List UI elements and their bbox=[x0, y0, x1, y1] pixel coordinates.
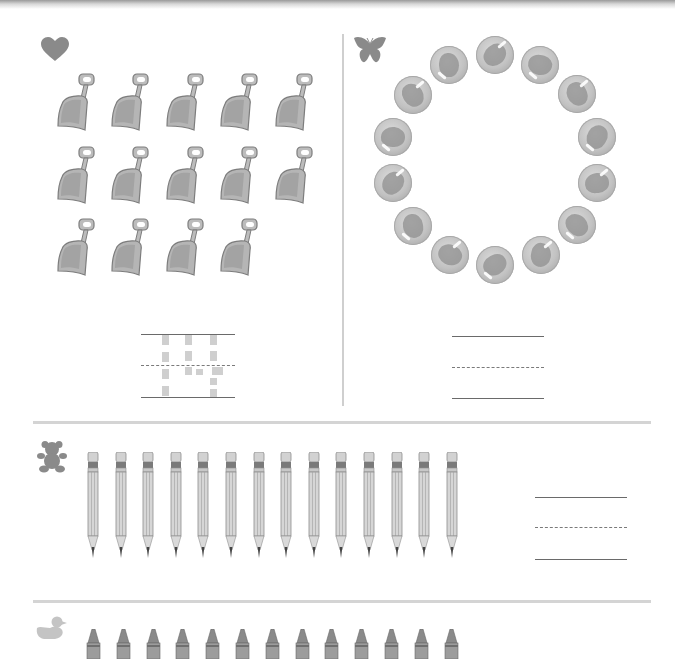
shovel-item bbox=[219, 72, 261, 132]
shovel-item bbox=[165, 217, 207, 277]
scan-top-edge bbox=[0, 0, 675, 9]
crayon-item bbox=[295, 629, 310, 659]
marble-item bbox=[374, 118, 412, 156]
crayon-item bbox=[205, 629, 220, 659]
marble-item bbox=[430, 46, 468, 84]
pencil-item bbox=[363, 452, 375, 560]
pencil-item bbox=[391, 452, 403, 560]
crayon-item bbox=[175, 629, 190, 659]
duck-icon bbox=[36, 616, 68, 640]
crayon-item bbox=[265, 629, 280, 659]
shovel-item bbox=[165, 145, 207, 205]
vertical-divider bbox=[342, 34, 344, 406]
marble-item bbox=[578, 118, 616, 156]
marble-item bbox=[431, 236, 469, 274]
shovel-item bbox=[274, 145, 316, 205]
crayon-item bbox=[444, 629, 459, 659]
horizontal-divider-2 bbox=[33, 600, 651, 603]
pencil-item bbox=[280, 452, 292, 560]
pencil-item bbox=[225, 452, 237, 560]
shovel-item bbox=[110, 217, 152, 277]
pencil-item bbox=[418, 452, 430, 560]
pencil-item bbox=[253, 452, 265, 560]
teddy-bear-icon bbox=[37, 441, 67, 473]
marble-item bbox=[394, 76, 432, 114]
shovel-item bbox=[56, 72, 98, 132]
marble-item bbox=[558, 206, 596, 244]
pencil-item bbox=[308, 452, 320, 560]
marble-item bbox=[558, 75, 596, 113]
marble-item bbox=[521, 46, 559, 84]
shovel-item bbox=[219, 217, 261, 277]
crayon-item bbox=[414, 629, 429, 659]
pencil-item bbox=[335, 452, 347, 560]
heart-icon bbox=[40, 37, 70, 62]
marble-item bbox=[476, 246, 514, 284]
shovel-item bbox=[56, 217, 98, 277]
shovel-item bbox=[165, 72, 207, 132]
shovel-item bbox=[219, 145, 261, 205]
crayon-item bbox=[86, 629, 101, 659]
butterfly-icon bbox=[353, 36, 387, 64]
shovel-item bbox=[110, 145, 152, 205]
pencil-item bbox=[170, 452, 182, 560]
crayon-item bbox=[324, 629, 339, 659]
pencil-item bbox=[142, 452, 154, 560]
crayon-item bbox=[354, 629, 369, 659]
horizontal-divider-1 bbox=[33, 421, 651, 424]
shovel-item bbox=[274, 72, 316, 132]
marble-item bbox=[476, 36, 514, 74]
marble-item bbox=[374, 164, 412, 202]
crayon-item bbox=[146, 629, 161, 659]
pencil-item bbox=[446, 452, 458, 560]
marble-item bbox=[522, 236, 560, 274]
crayon-item bbox=[384, 629, 399, 659]
marble-item bbox=[394, 207, 432, 245]
pencil-item bbox=[115, 452, 127, 560]
marble-item bbox=[578, 164, 616, 202]
shovel-item bbox=[56, 145, 98, 205]
shovel-item bbox=[110, 72, 152, 132]
pencil-item bbox=[197, 452, 209, 560]
crayon-item bbox=[235, 629, 250, 659]
crayon-item bbox=[116, 629, 131, 659]
pencil-item bbox=[87, 452, 99, 560]
